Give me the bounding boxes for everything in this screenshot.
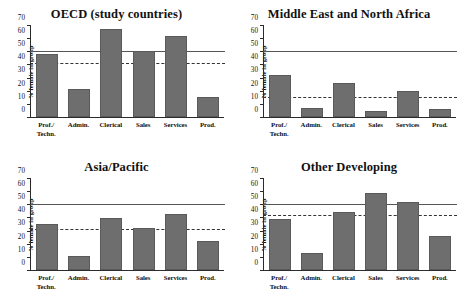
y-axis-tick-label: 0	[21, 107, 25, 114]
bar-slot	[63, 179, 95, 270]
x-axis-tick-label: Prof./ Techn.	[263, 121, 295, 138]
x-axis-tick-label: Services	[159, 274, 191, 291]
x-axis-tick-label: Admin.	[295, 121, 327, 138]
x-axis-tick-label: Admin.	[295, 274, 327, 291]
bar	[429, 109, 451, 117]
bar	[365, 193, 387, 270]
plot-area: % female in group010203040506070	[30, 179, 224, 271]
bar-slot	[128, 26, 160, 117]
plot-area: % female in group010203040506070	[263, 26, 456, 118]
y-axis-tick-label: 30	[18, 221, 25, 228]
bar	[36, 54, 58, 117]
bar	[197, 97, 219, 117]
x-axis-line	[263, 117, 456, 118]
bar	[68, 256, 90, 270]
bar-slot	[328, 26, 360, 117]
chart-panel: Other Developing% female in group0102030…	[233, 153, 465, 306]
y-axis-tick-label: 60	[18, 28, 25, 35]
x-axis-tick-label: Prod.	[192, 274, 224, 291]
y-axis-tick-label: 60	[251, 28, 258, 35]
bar-slot	[128, 179, 160, 270]
y-axis-tick-label: 10	[18, 94, 25, 101]
bar-slot	[296, 26, 328, 117]
y-axis-tick-label: 40	[18, 55, 25, 62]
x-axis-tick-label: Admin.	[62, 121, 94, 138]
bar	[397, 202, 419, 270]
x-axis-line	[30, 117, 224, 118]
bar-slot	[296, 179, 328, 270]
x-axis-tick-label: Services	[392, 121, 424, 138]
x-axis-tick-label: Clerical	[95, 274, 127, 291]
y-axis-tick-label: 50	[18, 41, 25, 48]
y-axis-tick-label: 20	[18, 81, 25, 88]
bar	[269, 75, 291, 117]
x-axis-tick-label: Prod.	[424, 274, 456, 291]
bar	[100, 218, 122, 270]
y-axis-tick-label: 0	[21, 260, 25, 267]
bar-slot	[160, 179, 192, 270]
bar-slot	[63, 26, 95, 117]
bar-slot	[264, 179, 296, 270]
bar-series	[31, 179, 224, 270]
y-axis-tick-label: 20	[18, 234, 25, 241]
bar	[333, 83, 355, 117]
chart-panel: Middle East and North Africa% female in …	[233, 0, 465, 153]
x-axis-tick-label: Admin.	[62, 274, 94, 291]
y-axis-tick-label: 50	[251, 194, 258, 201]
y-axis-tick-label: 30	[251, 68, 258, 75]
bar	[397, 91, 419, 117]
bar-slot	[424, 179, 456, 270]
y-axis-tick-label: 30	[18, 68, 25, 75]
y-axis-tick-label: 20	[251, 234, 258, 241]
bar	[269, 219, 291, 270]
bar	[36, 224, 58, 270]
x-axis-tick-label: Prof./ Techn.	[30, 121, 62, 138]
x-axis-tick-label: Clerical	[95, 121, 127, 138]
y-axis-tick-label: 20	[251, 81, 258, 88]
y-axis-tick-label: 50	[251, 41, 258, 48]
x-axis-tick-label: Clerical	[327, 274, 359, 291]
bar-slot	[31, 179, 63, 270]
y-axis-tick-label: 60	[251, 181, 258, 188]
plot-area: % female in group010203040506070	[30, 26, 224, 118]
y-axis-tick-label: 10	[251, 94, 258, 101]
x-axis-line	[30, 270, 224, 271]
bar-slot	[95, 179, 127, 270]
bar	[133, 228, 155, 270]
bar-slot	[328, 179, 360, 270]
y-axis-tick-label: 60	[18, 181, 25, 188]
x-axis-tick-label: Services	[392, 274, 424, 291]
y-axis-tick-label: 40	[18, 208, 25, 215]
x-axis-tick-label: Prof./ Techn.	[263, 274, 295, 291]
x-axis-tick-label: Services	[159, 121, 191, 138]
panel-title: Other Developing	[233, 153, 465, 179]
y-axis-tick-label: 70	[18, 15, 25, 22]
panel-grid: OECD (study countries)% female in group0…	[0, 0, 465, 306]
chart-panel: OECD (study countries)% female in group0…	[0, 0, 233, 153]
x-axis-tick-label: Clerical	[327, 121, 359, 138]
y-axis-tick-label: 70	[251, 15, 258, 22]
y-axis-tick-label: 70	[18, 168, 25, 175]
plot-area: % female in group010203040506070	[263, 179, 456, 271]
bar-slot	[392, 179, 424, 270]
y-axis-tick-label: 10	[251, 247, 258, 254]
x-axis-tick-label: Prod.	[424, 121, 456, 138]
bar-slot	[192, 26, 224, 117]
panel-title: Asia/Pacific	[0, 153, 233, 179]
x-axis-tick-label: Sales	[360, 121, 392, 138]
bar-series	[264, 179, 456, 270]
y-axis-tick-label: 50	[18, 194, 25, 201]
bar	[301, 108, 323, 117]
bar-slot	[31, 26, 63, 117]
x-axis-labels: Prof./ Techn.Admin.ClericalSalesServices…	[30, 118, 224, 138]
bar	[333, 212, 355, 271]
bar	[197, 241, 219, 270]
bar	[165, 214, 187, 270]
y-axis-tick-label: 0	[254, 107, 258, 114]
x-axis-labels: Prof./ Techn.Admin.ClericalSalesServices…	[30, 271, 224, 291]
bar-slot	[192, 179, 224, 270]
y-axis-tick-label: 70	[251, 168, 258, 175]
y-axis-tick-label: 40	[251, 208, 258, 215]
bar	[429, 236, 451, 270]
bar-slot	[392, 26, 424, 117]
